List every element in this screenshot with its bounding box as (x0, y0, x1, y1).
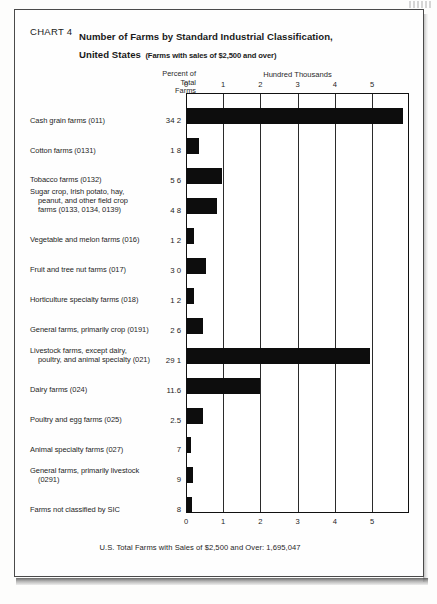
row-label-cont: farms (0133, 0134, 0139) (30, 205, 153, 214)
bar-3 (187, 198, 217, 214)
gridline-3 (298, 94, 299, 512)
x-tick-label-top-4: 4 (333, 80, 337, 89)
x-tick-label-bottom-0: 0 (184, 517, 188, 526)
row-percent-value: 4 8 (156, 206, 186, 215)
chart-row: Dairy farms (024)11.6 (0, 369, 186, 395)
x-tick-label-bottom-1: 1 (221, 517, 225, 526)
chart-row: Horticulture specialty farms (018)1 2 (0, 279, 186, 305)
row-label: Livestock farms, except dairy,poultry, a… (0, 346, 156, 365)
row-label: Cotton farms (0131) (0, 146, 156, 155)
scanned-page: CHART 4 Number of Farms by Standard Indu… (0, 0, 437, 604)
row-percent-value: 1 2 (156, 236, 186, 245)
row-label: Vegetable and melon farms (016) (0, 235, 156, 244)
x-tick-label-top-1: 1 (221, 80, 225, 89)
row-label: Poultry and egg farms (025) (0, 415, 156, 424)
page-edge-shadow-bottom (16, 578, 428, 585)
bar-11 (187, 437, 191, 453)
chart-number: CHART 4 (30, 26, 79, 37)
gridline-1 (223, 94, 224, 512)
row-percent-value: 9 (156, 475, 186, 484)
x-tick-label-top-5: 5 (370, 80, 374, 89)
chart-row: Vegetable and melon farms (016)1 2 (0, 219, 186, 245)
percent-header-line-1: Percent of (76, 70, 196, 79)
gridline-5 (372, 94, 373, 512)
row-percent-value: 3 0 (156, 266, 186, 275)
row-label: Horticulture specialty farms (018) (0, 295, 156, 304)
bar-6 (187, 288, 194, 304)
gridline-4 (335, 94, 336, 512)
chart-row: Fruit and tree nut farms (017)3 0 (0, 249, 186, 275)
x-axis-units-label: Hundred Thousands (186, 70, 409, 79)
chart-row: General farms, primarily livestock(0291)… (0, 449, 186, 484)
x-tick-label-top-3: 3 (295, 80, 299, 89)
bar-0 (187, 108, 403, 124)
row-percent-value: 11.6 (156, 386, 186, 395)
row-label-cont: poultry, and animal specialty (021) (30, 355, 153, 364)
bar-7 (187, 318, 203, 334)
bar-4 (187, 228, 194, 244)
x-axis-ticks-bottom: 012345 (0, 517, 437, 527)
bar-9 (187, 378, 260, 394)
row-label-cont: (0291) (30, 475, 153, 484)
page-title: Number of Farms by Standard Industrial C… (79, 31, 333, 42)
chart-row: Farms not classified by SIC8 (0, 488, 186, 514)
row-percent-value: 1 8 (156, 146, 186, 155)
row-label: Fruit and tree nut farms (017) (0, 265, 156, 274)
row-label: General farms, primarily livestock(0291) (0, 466, 156, 485)
bar-13 (187, 497, 192, 513)
category-label-column: Cash grain farms (011)34 2Cotton farms (… (0, 93, 186, 513)
x-tick-label-bottom-4: 4 (333, 517, 337, 526)
x-axis-ticks-top: 012345 (0, 80, 437, 90)
row-label: Dairy farms (024) (0, 385, 156, 394)
bar-1 (187, 138, 199, 154)
gridline-2 (260, 94, 261, 512)
bar-12 (187, 467, 193, 483)
row-percent-value: 34 2 (156, 116, 186, 125)
x-tick-label-top-0: 0 (184, 80, 188, 89)
page-title-line-2: United States (79, 49, 141, 60)
chart-subtitle: (Farms with sales of $2,500 and over) (145, 51, 276, 60)
chart-footnote: U.S. Total Farms with Sales of $2,500 an… (0, 543, 400, 552)
x-tick-label-bottom-2: 2 (258, 517, 262, 526)
row-percent-value: 8 (156, 505, 186, 514)
row-label: Cash grain farms (011) (0, 116, 156, 125)
page-corner-artifact (409, 1, 431, 8)
chart-row: Sugar crop, Irish potato, hay,peanut, an… (0, 170, 186, 215)
row-label: Sugar crop, Irish potato, hay,peanut, an… (0, 187, 156, 215)
chart-row: Cash grain farms (011)34 2 (0, 99, 186, 125)
chart-row: Poultry and egg farms (025)2.5 (0, 399, 186, 425)
row-percent-value: 1 2 (156, 296, 186, 305)
bar-2 (187, 168, 222, 184)
bar-5 (187, 258, 206, 274)
row-percent-value: 2.5 (156, 416, 186, 425)
bar-10 (187, 408, 203, 424)
x-tick-label-bottom-5: 5 (370, 517, 374, 526)
row-percent-value: 29 1 (156, 356, 186, 365)
row-label: Farms not classified by SIC (0, 505, 156, 514)
chart-row: Cotton farms (0131)1 8 (0, 129, 186, 155)
bar-8 (187, 348, 370, 364)
plot-area (186, 93, 409, 513)
chart-title-block: CHART 4 Number of Farms by Standard Indu… (30, 26, 360, 62)
chart-title-text: Number of Farms by Standard Industrial C… (79, 26, 347, 62)
row-label-cont: peanut, and other field crop (30, 196, 153, 205)
x-tick-label-bottom-3: 3 (295, 517, 299, 526)
chart-row: Livestock farms, except dairy,poultry, a… (0, 329, 186, 364)
axis-header: Percent of Total Farms Hundred Thousands… (0, 70, 437, 94)
x-tick-label-top-2: 2 (258, 80, 262, 89)
